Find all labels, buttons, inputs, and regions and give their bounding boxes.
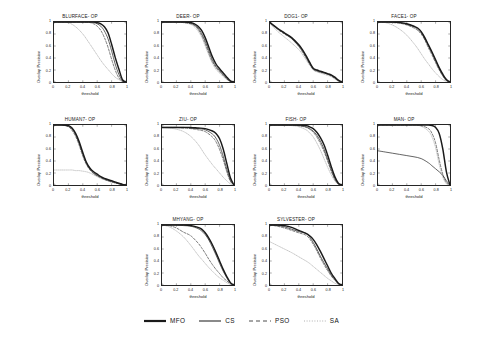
- x-tick-label: 0.8: [326, 188, 331, 192]
- x-tick-label: 0.2: [389, 85, 394, 89]
- plot-area: [161, 21, 235, 83]
- y-tick-label: 0: [373, 184, 375, 188]
- y-tick-label: 0.6: [262, 147, 267, 151]
- x-axis-label: threshold: [161, 91, 235, 96]
- subplot-sylvester: SYLVESTER- OPOverlap Precision00.20.40.6…: [248, 217, 344, 301]
- y-tick-label: 0.8: [154, 31, 159, 35]
- subplot-title: DEER- OP: [140, 14, 236, 19]
- legend-line-swatch: [304, 318, 326, 324]
- y-tick-label: 1: [157, 19, 159, 23]
- subplot-title: BLURFACE- OP: [32, 14, 128, 19]
- series-line-mfo: [162, 225, 234, 285]
- legend-line-swatch: [199, 318, 221, 324]
- plot-area: [161, 224, 235, 286]
- x-axis-label: threshold: [269, 294, 343, 299]
- y-axis-label-text: Overlap Precision: [144, 51, 149, 83]
- series-line-mfo: [270, 125, 342, 185]
- y-tick-label: 0.2: [46, 69, 51, 73]
- x-tick-label: 0: [376, 85, 378, 89]
- y-tick-label: 0.6: [154, 44, 159, 48]
- x-tick-label: 0.2: [173, 288, 178, 292]
- x-tick-label: 0.2: [65, 188, 70, 192]
- x-tick-label: 0: [268, 85, 270, 89]
- x-tick-label: 1: [126, 188, 128, 192]
- x-tick-label: 1: [450, 188, 452, 192]
- legend-line-swatch: [144, 318, 166, 324]
- x-tick-label: 0.4: [296, 85, 301, 89]
- y-axis-label-text: Overlap Precision: [252, 154, 257, 186]
- series-line-pso: [54, 22, 126, 82]
- y-tick-label: 0.4: [262, 159, 267, 163]
- y-tick-label: 1: [49, 19, 51, 23]
- series-line-cs: [162, 127, 234, 185]
- x-tick-label: 1: [342, 188, 344, 192]
- y-tick-label: 0.6: [370, 147, 375, 151]
- y-tick-label: 0.6: [370, 44, 375, 48]
- x-tick-label: 0.4: [188, 85, 193, 89]
- y-tick-label: 0.2: [262, 272, 267, 276]
- y-tick-label: 0.2: [154, 172, 159, 176]
- x-tick-label: 0.8: [218, 188, 223, 192]
- y-tick-label: 0.2: [154, 272, 159, 276]
- x-axis-label: threshold: [269, 194, 343, 199]
- x-tick-label: 0.6: [419, 188, 424, 192]
- y-axis-label-text: Overlap Precision: [360, 51, 365, 83]
- y-tick-label: 0.4: [370, 56, 375, 60]
- series-line-cs: [54, 22, 126, 82]
- legend-label: MFO: [170, 317, 185, 324]
- figure-legend: MFOCSPSOSA: [0, 316, 483, 324]
- subplot-mhyang: MHYANG- OPOverlap Precision00.20.40.60.8…: [140, 217, 236, 301]
- plot-area: [53, 21, 127, 83]
- plot-area: [53, 124, 127, 186]
- x-tick-label: 1: [342, 288, 344, 292]
- series-line-cs: [54, 125, 126, 185]
- subplot-dog1: DOG1- OPOverlap Precision00.20.40.60.810…: [248, 14, 344, 98]
- y-axis-label-text: Overlap Precision: [144, 154, 149, 186]
- x-tick-label: 0.4: [404, 188, 409, 192]
- x-axis-label: threshold: [161, 294, 235, 299]
- subplot-title: FISH- OP: [248, 117, 344, 122]
- x-tick-label: 0: [268, 188, 270, 192]
- x-tick-label: 0.2: [65, 85, 70, 89]
- x-tick-label: 0.6: [311, 188, 316, 192]
- x-tick-label: 0.6: [311, 288, 316, 292]
- x-tick-label: 0.6: [95, 85, 100, 89]
- y-tick-label: 0.4: [154, 259, 159, 263]
- x-tick-label: 0.4: [188, 188, 193, 192]
- legend-item-sa: SA: [304, 316, 339, 324]
- x-tick-label: 0.8: [110, 188, 115, 192]
- y-tick-label: 0.8: [154, 134, 159, 138]
- x-tick-label: 0.8: [218, 288, 223, 292]
- x-tick-label: 0: [160, 85, 162, 89]
- series-line-cs: [270, 125, 342, 185]
- x-tick-label: 0: [268, 288, 270, 292]
- subplot-title: MHYANG- OP: [140, 217, 236, 222]
- x-tick-label: 0: [376, 188, 378, 192]
- x-tick-label: 0.8: [326, 288, 331, 292]
- y-tick-label: 0.6: [46, 147, 51, 151]
- legend-label: PSO: [275, 317, 290, 324]
- subplot-title: MAN- OP: [356, 117, 452, 122]
- x-tick-label: 1: [342, 85, 344, 89]
- y-axis-label-text: Overlap Precision: [252, 51, 257, 83]
- x-tick-label: 0.8: [326, 85, 331, 89]
- y-axis-label-text: Overlap Precision: [36, 51, 41, 83]
- y-tick-label: 0.8: [262, 31, 267, 35]
- subplot-human7: HUMAN7- OPOverlap Precision00.20.40.60.8…: [32, 117, 128, 201]
- series-line-mfo: [54, 22, 126, 82]
- subplot-title: ZIU- OP: [140, 117, 236, 122]
- y-tick-label: 1: [49, 122, 51, 126]
- y-tick-label: 0.6: [46, 44, 51, 48]
- x-tick-label: 0.6: [203, 288, 208, 292]
- subplot-title: FACE1- OP: [356, 14, 452, 19]
- series-line-cs: [162, 225, 234, 285]
- legend-label: SA: [330, 317, 339, 324]
- x-tick-label: 0.2: [281, 85, 286, 89]
- x-tick-label: 0.6: [203, 188, 208, 192]
- x-tick-label: 0.6: [311, 85, 316, 89]
- y-tick-label: 0.2: [370, 69, 375, 73]
- y-tick-label: 0: [49, 81, 51, 85]
- y-tick-label: 0.6: [154, 147, 159, 151]
- subplot-title: SYLVESTER- OP: [248, 217, 344, 222]
- subplot-title: HUMAN7- OP: [32, 117, 128, 122]
